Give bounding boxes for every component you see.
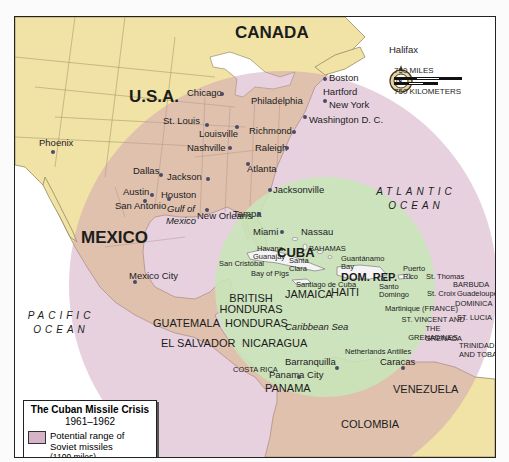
legend-missile-line1: Potential range of <box>50 431 124 442</box>
city-dot <box>205 123 209 127</box>
city-dot <box>167 197 171 201</box>
scale-bar: 750 MILES 750 KILOMETERS <box>394 66 462 96</box>
label-canada: CANADA <box>235 24 309 41</box>
label-atlantic-ocean: ATLANTIC OCEAN <box>361 185 471 213</box>
city-dallas: Dallas <box>133 166 159 176</box>
label-usa: U.S.A. <box>129 88 179 105</box>
city-dot <box>246 162 250 166</box>
label-guatemala: GUATEMALA <box>153 318 220 329</box>
scale-km-bar <box>394 82 462 85</box>
city-dot <box>150 193 154 197</box>
city-dot <box>268 188 272 192</box>
map-frame: N 750 MILES 750 KILOMETERS CANADA U.S.A.… <box>14 16 496 458</box>
legend-missile-line3: (1100 miles) <box>50 452 124 458</box>
label-pacific-ocean: PACIFIC OCEAN <box>21 309 101 337</box>
legend-item-missile-range: Potential range of Soviet missiles (1100… <box>28 431 152 458</box>
city-dot <box>235 125 239 129</box>
legend-title: The Cuban Missile Crisis <box>28 404 152 416</box>
city-dot <box>335 366 339 370</box>
city-bay-of-pigs: Bay of Pigs <box>251 270 289 278</box>
label-bahamas: BAHAMAS <box>309 245 346 253</box>
city-mexico-city: Mexico City <box>129 271 178 281</box>
city-dot <box>133 280 137 284</box>
city-dot <box>401 366 405 370</box>
city-richmond: Richmond <box>249 126 292 136</box>
city-philadelphia: Philadelphia <box>251 96 303 106</box>
label-trinidad: TRINIDAD AND TOBAGO <box>459 341 496 359</box>
city-san-cristobal: San Cristóbal <box>219 260 264 268</box>
city-dot <box>159 173 163 177</box>
label-barbuda: BARBUDA <box>453 281 489 289</box>
city-puerto-rico: Puerto Rico <box>403 265 427 281</box>
city-austin: Austin <box>123 187 149 197</box>
city-dot <box>51 150 55 154</box>
city-caracas: Caracas <box>380 357 415 367</box>
city-barranquilla: Barranquilla <box>285 357 336 367</box>
city-st-thomas: St. Thomas <box>426 273 464 281</box>
label-mexico: MEXICO <box>81 229 148 246</box>
city-santiago-de-cuba: Santiago de Cuba <box>296 281 356 289</box>
city-dot <box>303 115 307 119</box>
city-panama-city: Panama City <box>269 370 323 380</box>
legend-missile-line2: Soviet missiles <box>50 442 124 453</box>
city-guadeloupe: Guadeloupe <box>457 290 496 298</box>
city-atlanta: Atlanta <box>247 164 277 174</box>
city-dot <box>206 177 210 181</box>
city-dot <box>323 99 327 103</box>
city-miami: Miami <box>253 227 278 237</box>
city-san-antonio: San Antonio <box>115 201 166 211</box>
label-colombia: COLOMBIA <box>341 419 399 430</box>
city-jacksonville: Jacksonville <box>273 185 324 195</box>
city-dot <box>220 92 224 96</box>
city-dot <box>381 277 385 281</box>
city-hartford: Hartford <box>323 87 357 97</box>
label-jamaica: JAMAICA <box>285 289 333 300</box>
city-guantanamo-bay: Guantánamo Bay <box>341 255 383 271</box>
legend-years: 1961–1962 <box>28 416 152 428</box>
scale-miles-bar <box>394 77 462 80</box>
city-chicago: Chicago <box>187 88 222 98</box>
city-washington: Washington D. C. <box>309 115 383 125</box>
label-panama: PANAMA <box>265 383 311 394</box>
city-st-croix: St. Croix <box>427 290 456 298</box>
city-nassau: Nassau <box>301 227 333 237</box>
city-dot <box>228 146 232 150</box>
city-boston: Boston <box>329 73 359 83</box>
city-louisville: Louisville <box>199 129 238 139</box>
city-santa-clara: Santa Clara <box>289 257 313 273</box>
label-british-honduras: BRITISH HONDURAS <box>219 293 283 315</box>
label-honduras: HONDURAS <box>225 318 288 329</box>
city-nashville: Nashville <box>187 143 226 153</box>
map-legend: The Cuban Missile Crisis 1961–1962 Poten… <box>23 400 157 458</box>
city-jackson: Jackson <box>167 172 202 182</box>
city-dot <box>205 208 209 212</box>
legend-swatch-missile-range <box>28 431 46 444</box>
city-santo-domingo: Santo Domingo <box>379 283 409 299</box>
city-dot <box>280 230 284 234</box>
city-dot <box>297 375 301 379</box>
label-dominica: DOMINICA <box>455 300 493 308</box>
scale-km-label: 750 KILOMETERS <box>394 87 462 96</box>
scale-miles-label: 750 MILES <box>394 66 462 75</box>
city-netherlands-antilles: Netherlands Antilles <box>345 348 411 356</box>
city-dot <box>292 130 296 134</box>
city-martinique: Martinique (FRANCE) <box>385 305 458 313</box>
label-caribbean-sea: Caribbean Sea <box>285 322 348 332</box>
city-phoenix: Phoenix <box>39 138 73 148</box>
label-nicaragua: NICARAGUA <box>242 338 307 349</box>
city-dot <box>143 199 147 203</box>
city-halifax: Halifax <box>389 45 418 55</box>
label-gulf-of-mexico: Gulf of Mexico <box>161 203 201 227</box>
city-dot <box>257 212 261 216</box>
city-dot <box>323 77 327 81</box>
city-st-louis: St. Louis <box>163 116 200 126</box>
city-dot <box>285 146 289 150</box>
label-venezuela: VENEZUELA <box>393 384 458 395</box>
city-new-york: New York <box>329 100 369 110</box>
city-raleigh: Raleigh <box>255 143 287 153</box>
label-el-salvador: EL SALVADOR <box>161 338 235 349</box>
label-grenada: GRENADA <box>425 335 462 343</box>
